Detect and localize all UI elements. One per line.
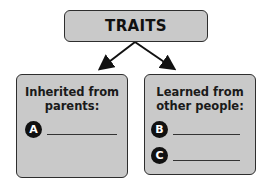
inherited-box: Inherited from parents: A (16, 74, 128, 178)
blank-row-c: C (151, 147, 240, 164)
badge-a-icon: A (25, 121, 42, 138)
badge-c-icon: C (151, 147, 168, 164)
answer-blank-b[interactable] (173, 134, 240, 135)
learned-header: Learned from other people: (145, 85, 255, 113)
traits-root-box: TRAITS (64, 10, 208, 42)
inherited-header-line2: parents: (17, 99, 127, 113)
root-label: TRAITS (105, 17, 167, 35)
arrow-to-inherited (101, 42, 135, 68)
learned-header-line2: other people: (145, 99, 255, 113)
learned-header-line1: Learned from (145, 85, 255, 99)
answer-blank-a[interactable] (47, 134, 117, 135)
arrow-to-learned (135, 42, 173, 68)
badge-b-icon: B (151, 121, 168, 138)
inherited-header: Inherited from parents: (17, 85, 127, 113)
blank-row-b: B (151, 121, 240, 138)
inherited-header-line1: Inherited from (17, 85, 127, 99)
answer-blank-c[interactable] (173, 160, 240, 161)
learned-box: Learned from other people: B C (144, 74, 256, 175)
blank-row-a: A (25, 121, 117, 138)
